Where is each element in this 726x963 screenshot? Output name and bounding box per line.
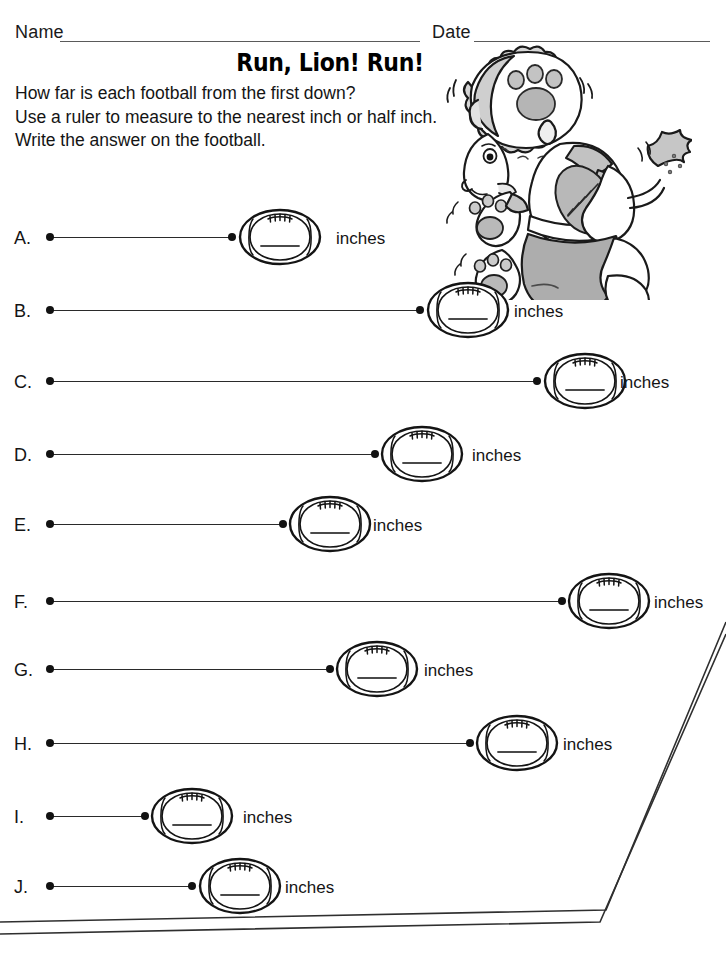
segment-start-dot bbox=[46, 812, 54, 820]
segment-start-dot bbox=[46, 739, 54, 747]
football-answer-shape[interactable] bbox=[424, 279, 512, 341]
problem-letter-e: E. bbox=[14, 516, 31, 534]
problem-row: H. bbox=[0, 708, 726, 778]
measurement-segment bbox=[50, 743, 470, 744]
name-input-rule[interactable] bbox=[60, 41, 420, 42]
problem-row: F. bbox=[0, 566, 726, 636]
football-answer-shape[interactable] bbox=[333, 638, 421, 700]
problem-row: E. bbox=[0, 489, 726, 559]
segment-end-dot bbox=[416, 306, 424, 314]
segment-start-dot bbox=[46, 597, 54, 605]
measurement-segment bbox=[50, 886, 192, 887]
instructions-block: How far is each football from the first … bbox=[15, 82, 445, 153]
problem-row: B. bbox=[0, 275, 726, 345]
problem-letter-d: D. bbox=[14, 446, 32, 464]
instruction-line-3: Write the answer on the football. bbox=[15, 129, 445, 153]
problem-row: D. bbox=[0, 419, 726, 489]
football-answer-shape[interactable] bbox=[378, 423, 466, 485]
unit-label-inches: inches bbox=[424, 662, 473, 679]
problem-row: C. bbox=[0, 346, 726, 416]
football-answer-shape[interactable] bbox=[196, 855, 284, 917]
measurement-segment bbox=[50, 454, 375, 455]
segment-end-dot bbox=[188, 882, 196, 890]
segment-start-dot bbox=[46, 665, 54, 673]
segment-end-dot bbox=[228, 233, 236, 241]
problem-letter-g: G. bbox=[14, 661, 33, 679]
problem-letter-i: I. bbox=[14, 808, 24, 826]
football-answer-shape[interactable] bbox=[541, 350, 629, 412]
measurement-segment bbox=[50, 524, 283, 525]
segment-start-dot bbox=[46, 520, 54, 528]
unit-label-inches: inches bbox=[654, 594, 703, 611]
problem-row: I. bbox=[0, 781, 726, 851]
segment-start-dot bbox=[46, 450, 54, 458]
segment-start-dot bbox=[46, 377, 54, 385]
measurement-segment bbox=[50, 237, 232, 238]
problem-letter-j: J. bbox=[14, 878, 28, 896]
name-label: Name bbox=[15, 22, 64, 43]
unit-label-inches: inches bbox=[336, 230, 385, 247]
measurement-segment bbox=[50, 601, 562, 602]
instruction-line-2: Use a ruler to measure to the nearest in… bbox=[15, 106, 445, 130]
unit-label-inches: inches bbox=[285, 879, 334, 896]
problem-row: J. bbox=[0, 851, 726, 921]
measurement-segment bbox=[50, 381, 537, 382]
segment-start-dot bbox=[46, 306, 54, 314]
unit-label-inches: inches bbox=[514, 303, 563, 320]
problem-row: A. bbox=[0, 202, 726, 272]
football-answer-shape[interactable] bbox=[473, 712, 561, 774]
problem-letter-c: C. bbox=[14, 373, 32, 391]
segment-end-dot bbox=[533, 377, 541, 385]
unit-label-inches: inches bbox=[373, 517, 422, 534]
unit-label-inches: inches bbox=[243, 809, 292, 826]
segment-start-dot bbox=[46, 882, 54, 890]
unit-label-inches: inches bbox=[620, 374, 669, 391]
football-answer-shape[interactable] bbox=[286, 493, 374, 555]
problem-letter-h: H. bbox=[14, 735, 32, 753]
football-answer-shape[interactable] bbox=[148, 785, 236, 847]
problem-row: G. bbox=[0, 634, 726, 704]
worksheet-page: Name Date Run, Lion! Run! How far is eac… bbox=[0, 0, 726, 963]
measurement-segment bbox=[50, 669, 330, 670]
problem-letter-a: A. bbox=[14, 229, 31, 247]
problem-letter-b: B. bbox=[14, 302, 31, 320]
problem-letter-f: F. bbox=[14, 593, 28, 611]
segment-start-dot bbox=[46, 233, 54, 241]
unit-label-inches: inches bbox=[472, 447, 521, 464]
measurement-segment bbox=[50, 816, 145, 817]
football-answer-shape[interactable] bbox=[565, 570, 653, 632]
unit-label-inches: inches bbox=[563, 736, 612, 753]
football-answer-shape[interactable] bbox=[236, 206, 324, 268]
measurement-segment bbox=[50, 310, 420, 311]
instruction-line-1: How far is each football from the first … bbox=[15, 82, 445, 106]
